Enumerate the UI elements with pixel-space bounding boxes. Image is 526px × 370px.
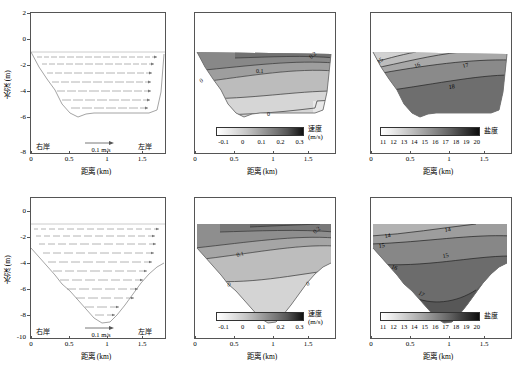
tickmark <box>69 336 70 339</box>
colorbar-title-salinity-bottom: 盐度 <box>484 312 498 320</box>
right-bank-label-top-left: 右岸 <box>36 141 50 151</box>
colorbar-ticks-salinity-top: 11 12 13 14 15 16 17 18 19 20 <box>378 138 484 145</box>
tickmark <box>27 315 30 316</box>
cbar-tick: 20 <box>472 138 482 145</box>
ytick-bottom-left-0: 0 <box>12 207 26 215</box>
tickmark <box>308 151 309 154</box>
cbar-tick: 0 <box>233 138 252 145</box>
ytick-top-left-4: -6 <box>10 113 26 121</box>
ytick-bottom-left-5: -10 <box>6 333 26 341</box>
tickmark <box>69 151 70 154</box>
colorbar-gradient-salinity-bottom <box>380 312 480 321</box>
ytick-bottom-left-2: -4 <box>10 259 26 267</box>
colorbar-unit-velocity-top: (m/s) <box>308 133 323 141</box>
xtick-bottom-right-3: 1.5 <box>476 340 492 348</box>
tickmark <box>410 151 411 154</box>
xlabel-bottom-right: 距离 (km) <box>398 350 478 361</box>
tickmark <box>27 91 30 92</box>
cbar-tick: 16 <box>430 138 440 145</box>
cbar-tick: 20 <box>472 323 482 330</box>
xtick-bottom-middle-1: 0.5 <box>226 340 242 348</box>
xtick-top-right-0: 0 <box>364 155 378 163</box>
xtick-bottom-middle-0: 0 <box>188 340 202 348</box>
colorbar-title-salinity-top: 盐度 <box>484 127 498 135</box>
vector-scale-label-top-left: 0.1 m/s <box>80 146 122 153</box>
cbar-tick: 11 <box>378 323 388 330</box>
xtick-top-right-1: 0.5 <box>402 155 418 163</box>
colorbar-gradient-velocity-bottom <box>216 312 304 321</box>
cbar-tick: 0 <box>233 323 252 330</box>
svg-text:0: 0 <box>267 111 270 117</box>
xtick-bottom-left-1: 0.5 <box>61 340 77 348</box>
tickmark <box>273 151 274 154</box>
vector-scale-arrow-bottom-left <box>85 324 115 331</box>
axes-frame-top-left <box>30 12 166 154</box>
colorbar-gradient-salinity-top <box>380 127 480 136</box>
cbar-tick: 16 <box>430 323 440 330</box>
xtick-top-right-3: 1.5 <box>476 155 492 163</box>
cbar-tick: 11 <box>378 138 388 145</box>
tickmark <box>107 151 108 154</box>
colorbar-ticks-velocity-top: -0.1 0 0.1 0.2 0.3 <box>214 138 310 145</box>
cbar-tick: 17 <box>440 138 450 145</box>
ytick-bottom-left-1: -2 <box>10 233 26 241</box>
cbar-tick: 13 <box>399 323 409 330</box>
xtick-top-middle-0: 0 <box>188 155 202 163</box>
tickmark <box>27 263 30 264</box>
colorbar-label-velocity-top: 速度 <box>308 125 322 133</box>
svg-text:0: 0 <box>198 77 204 84</box>
colorbar-ticks-salinity-bottom: 11 12 13 14 15 16 17 18 19 20 <box>378 323 484 330</box>
tickmark <box>142 336 143 339</box>
cbar-tick: 12 <box>388 138 398 145</box>
cbar-tick: 18 <box>451 138 461 145</box>
xtick-top-left-3: 1.5 <box>134 155 150 163</box>
svg-text:0.1: 0.1 <box>256 68 264 74</box>
cbar-tick: 12 <box>388 323 398 330</box>
cbar-tick: 0.2 <box>271 138 290 145</box>
xtick-bottom-middle-2: 1 <box>266 340 280 348</box>
tickmark <box>27 289 30 290</box>
ytick-top-left-2: -2 <box>10 61 26 69</box>
tickmark <box>484 151 485 154</box>
cbar-tick: 14 <box>409 138 419 145</box>
tickmark <box>195 336 196 339</box>
cbar-tick: 0.2 <box>271 323 290 330</box>
panel-top-middle-velocity: 0 0.1 0.2 0 速度 (m/s) -0.1 0 0.1 0.2 0.3 <box>176 0 352 185</box>
xlabel-top-left: 距离 (km) <box>56 165 136 176</box>
panel-top-right-salinity: 15 16 17 18 盐度 11 12 13 14 15 16 17 18 <box>352 0 526 185</box>
colorbar-title-velocity-top: 速度 (m/s) <box>308 125 323 141</box>
tickmark <box>234 151 235 154</box>
cbar-tick: 14 <box>409 323 419 330</box>
svg-text:0: 0 <box>305 280 310 287</box>
svg-text:18: 18 <box>448 83 455 90</box>
tickmark <box>27 237 30 238</box>
cbar-tick: 0.3 <box>290 138 309 145</box>
colorbar-bottom-right: 盐度 11 12 13 14 15 16 17 18 19 20 <box>380 312 525 338</box>
ytick-top-left-1: 0 <box>12 35 26 43</box>
xtick-bottom-left-0: 0 <box>24 340 38 348</box>
axes-frame-bottom-left <box>30 197 166 339</box>
panel-bottom-middle-velocity: 0.1 0.2 0 0 速度 (m/s) -0.1 0 0.1 0.2 0.3 … <box>176 185 352 370</box>
vector-field-top-left <box>31 13 165 153</box>
ytick-top-left-3: -4 <box>10 87 26 95</box>
xtick-top-left-1: 0.5 <box>61 155 77 163</box>
panel-bottom-left-vectors: 水深 (m) 0 -2 -4 -6 -8 -10 右岸 左岸 0.1 m/s 0… <box>0 185 176 370</box>
xtick-top-middle-3: 1.5 <box>300 155 316 163</box>
colorbar-top-right: 盐度 11 12 13 14 15 16 17 18 19 20 <box>380 127 525 153</box>
cbar-tick: 15 <box>420 138 430 145</box>
tickmark <box>484 336 485 339</box>
colorbar-label-velocity-bottom: 速度 <box>308 310 322 318</box>
cbar-tick: 17 <box>440 323 450 330</box>
tickmark <box>27 117 30 118</box>
cbar-tick: 0.1 <box>252 323 271 330</box>
xtick-bottom-left-2: 1 <box>100 340 114 348</box>
cbar-tick: -0.1 <box>214 323 233 330</box>
xlabel-bottom-middle: 距离 (km) <box>222 350 302 361</box>
xtick-top-middle-2: 1 <box>266 155 280 163</box>
colorbar-label-salinity-top: 盐度 <box>484 127 498 135</box>
tickmark <box>31 336 32 339</box>
colorbar-ticks-velocity-bottom: -0.1 0 0.1 0.2 0.3 <box>214 323 310 330</box>
cbar-tick: 19 <box>461 323 471 330</box>
colorbar-unit-velocity-bottom: (m/s) <box>308 318 323 326</box>
tickmark <box>371 336 372 339</box>
